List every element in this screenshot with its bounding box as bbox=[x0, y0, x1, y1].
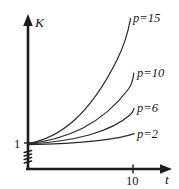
y-axis-arrow-icon bbox=[23, 14, 33, 26]
curve-p-10 bbox=[29, 73, 134, 143]
curve-label-p-6: p=6 bbox=[136, 101, 159, 115]
curve-label-p-10: p=10 bbox=[136, 66, 165, 80]
y-tick-label-1: 1 bbox=[14, 137, 20, 151]
y-axis-label: K bbox=[34, 15, 45, 30]
x-axis-label: t bbox=[165, 172, 170, 187]
curve-label-p-15: p=15 bbox=[132, 11, 160, 25]
growth-curve-chart: K t 1 10 p=15 p=10 p=6 p=2 bbox=[0, 0, 179, 189]
curve-group bbox=[29, 19, 135, 145]
x-tick-label-10: 10 bbox=[126, 174, 139, 188]
curve-label-p-2: p=2 bbox=[136, 127, 158, 141]
figure-container: K t 1 10 p=15 p=10 p=6 p=2 bbox=[0, 0, 179, 189]
